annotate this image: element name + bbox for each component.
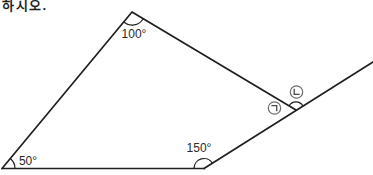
nieun-circle xyxy=(290,86,302,98)
angle-mark-nieun-icon xyxy=(290,86,302,98)
sides-left-and-upper-right xyxy=(2,12,296,169)
arc-150-degrees xyxy=(194,159,212,169)
side-lower-right-with-extension xyxy=(204,62,373,169)
label-50-degrees: 50° xyxy=(19,154,37,168)
worksheet-canvas: 하시오. 100° 50° 150° xyxy=(0,0,373,175)
angle-mark-giyeok-icon xyxy=(268,102,280,114)
geometry-figure: 100° 50° 150° xyxy=(0,0,373,175)
arc-50-degrees xyxy=(10,159,15,169)
label-100-degrees: 100° xyxy=(122,27,147,41)
arc-unknown-angle xyxy=(289,102,303,106)
label-150-degrees: 150° xyxy=(187,141,212,155)
giyeok-circle xyxy=(268,102,280,114)
